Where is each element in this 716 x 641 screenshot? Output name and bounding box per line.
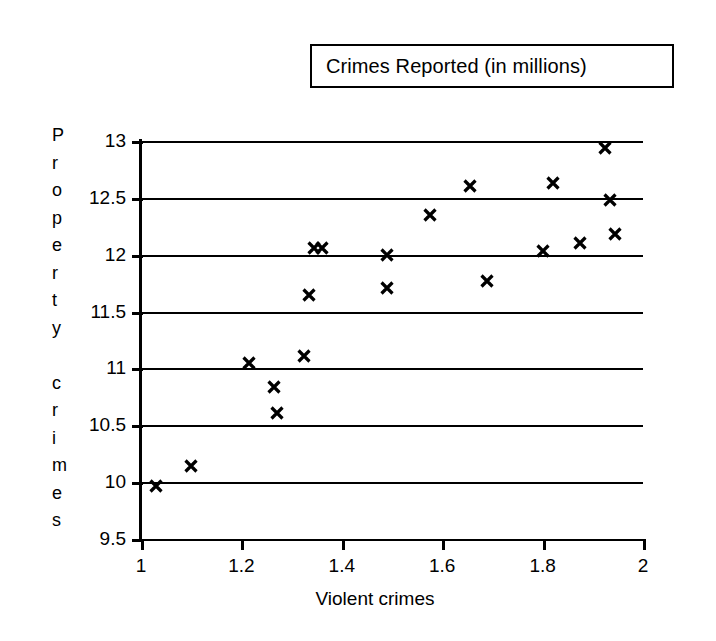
gridline xyxy=(141,482,643,484)
y-tick-label: 12 xyxy=(105,245,126,264)
plot-area xyxy=(141,141,643,539)
y-tick-label: 10 xyxy=(105,472,126,491)
data-point-marker xyxy=(543,173,563,193)
y-tick-label: 9.5 xyxy=(100,529,126,548)
x-tick-label: 2 xyxy=(613,556,673,575)
gridline xyxy=(141,368,643,370)
gridline xyxy=(141,539,643,541)
x-axis-title-wrap: Violent crimes xyxy=(0,588,716,610)
x-tick-label: 1.8 xyxy=(513,556,573,575)
y-tick-label-group: 9.51010.51111.51212.513 xyxy=(0,0,126,641)
y-tick-label: 11 xyxy=(106,358,126,377)
data-point-marker xyxy=(600,190,620,210)
data-point-marker xyxy=(477,271,497,291)
gridline xyxy=(141,198,643,200)
x-tick-label: 1 xyxy=(111,556,171,575)
gridline xyxy=(141,312,643,314)
x-tick xyxy=(643,539,646,550)
chart-title: Crimes Reported (in millions) xyxy=(326,55,587,78)
data-point-marker xyxy=(181,456,201,476)
x-tick-label: 1.4 xyxy=(312,556,372,575)
y-tick-label: 11.5 xyxy=(90,302,126,321)
x-tick-label: 1.2 xyxy=(211,556,271,575)
x-tick-label: 1.6 xyxy=(412,556,472,575)
gridline xyxy=(141,255,643,257)
y-tick-label: 13 xyxy=(105,131,126,150)
gridline xyxy=(141,141,643,143)
data-point-marker xyxy=(533,241,553,261)
data-point-marker xyxy=(264,377,284,397)
y-tick-label: 10.5 xyxy=(89,415,126,434)
data-point-marker xyxy=(420,205,440,225)
x-axis-title: Violent crimes xyxy=(316,588,435,609)
data-point-marker xyxy=(267,403,287,423)
gridline xyxy=(141,425,643,427)
data-point-marker xyxy=(146,476,166,496)
chart-title-box: Crimes Reported (in millions) xyxy=(310,44,674,88)
data-point-marker xyxy=(570,233,590,253)
data-point-marker xyxy=(299,285,319,305)
data-point-marker xyxy=(377,278,397,298)
data-point-marker xyxy=(294,346,314,366)
y-tick-label: 12.5 xyxy=(89,188,126,207)
data-point-marker xyxy=(460,176,480,196)
data-point-marker xyxy=(605,224,625,244)
